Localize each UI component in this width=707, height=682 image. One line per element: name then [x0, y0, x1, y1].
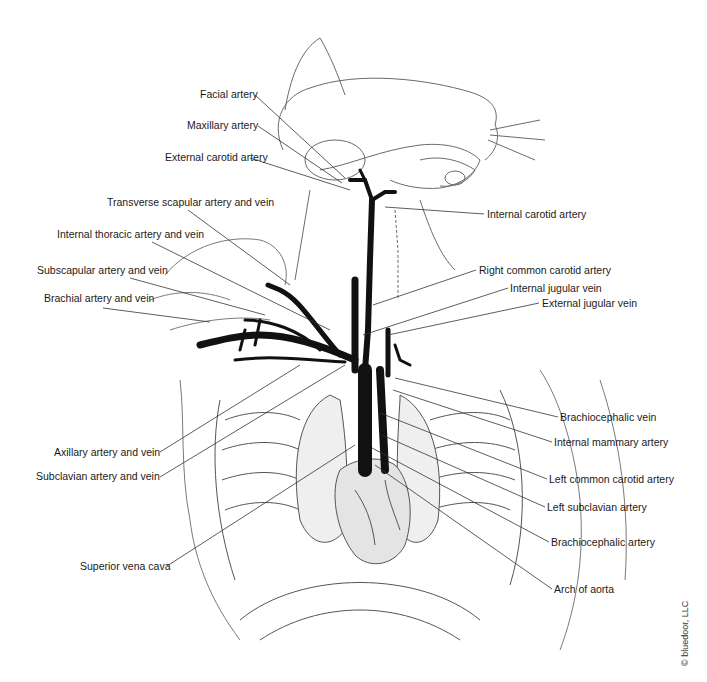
cat-anatomy-illustration: [0, 0, 707, 682]
label-internal-jugular-vein: Internal jugular vein: [510, 282, 602, 294]
anatomy-figure: Facial artery Maxillary artery External …: [0, 0, 707, 682]
leader-line-axillary-artery-vein: [160, 365, 300, 452]
leader-line-maxillary-artery: [258, 126, 342, 183]
leader-line-internal-jugular-vein: [363, 288, 508, 335]
label-axillary-artery-vein: Axillary artery and vein: [54, 446, 160, 458]
copyright-notice: © bluedoor, LLC: [680, 601, 690, 666]
label-internal-thoracic-artery-vein: Internal thoracic artery and vein: [57, 228, 204, 240]
label-right-common-carotid-artery: Right common carotid artery: [479, 264, 611, 276]
leader-line-brachiocephalic-vein: [395, 378, 558, 417]
label-external-carotid-artery: External carotid artery: [165, 151, 268, 163]
label-internal-carotid-artery: Internal carotid artery: [487, 208, 586, 220]
label-subscapular-artery-vein: Subscapular artery and vein: [37, 264, 168, 276]
label-transverse-scapular-artery-vein: Transverse scapular artery and vein: [107, 196, 274, 208]
label-subclavian-artery-vein: Subclavian artery and vein: [36, 470, 160, 482]
label-brachial-artery-vein: Brachial artery and vein: [44, 292, 154, 304]
leader-line-facial-artery: [255, 95, 345, 178]
leader-line-external-jugular-vein: [388, 303, 539, 335]
leader-line-internal-thoracic-artery-vein: [152, 242, 330, 330]
label-internal-mammary-artery: Internal mammary artery: [554, 436, 668, 448]
label-left-subclavian-artery: Left subclavian artery: [547, 501, 647, 513]
label-facial-artery: Facial artery: [200, 88, 258, 100]
leader-line-brachial-artery-vein: [103, 308, 210, 322]
head-sketch: [278, 38, 545, 300]
label-brachiocephalic-artery: Brachiocephalic artery: [551, 536, 655, 548]
label-maxillary-artery: Maxillary artery: [187, 119, 258, 131]
label-external-jugular-vein: External jugular vein: [542, 297, 637, 309]
label-superior-vena-cava: Superior vena cava: [80, 560, 170, 572]
label-brachiocephalic-vein: Brachiocephalic vein: [560, 411, 656, 423]
label-left-common-carotid-artery: Left common carotid artery: [549, 473, 674, 485]
leader-line-internal-carotid-artery: [385, 207, 484, 214]
leader-line-right-common-carotid-artery: [373, 270, 476, 305]
label-arch-of-aorta: Arch of aorta: [554, 583, 614, 595]
